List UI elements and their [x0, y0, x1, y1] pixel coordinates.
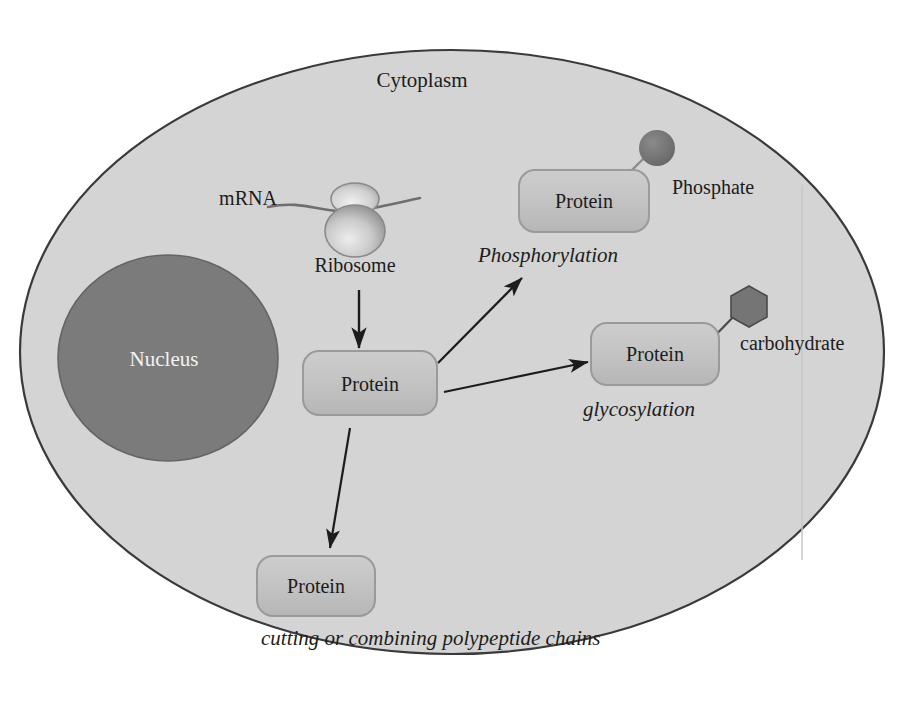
- phosphate-label: Phosphate: [672, 176, 754, 199]
- cell-diagram: Cytoplasm Nucleus mRNA Ribosome Protein …: [0, 0, 903, 717]
- glycosylation-process-label: glycosylation: [583, 397, 695, 421]
- phosphate-group-icon: [639, 130, 675, 166]
- proteolysis-process-label: cutting or combining polypeptide chains: [261, 626, 600, 650]
- nucleus-label: Nucleus: [130, 347, 199, 371]
- mrna-label: mRNA: [219, 187, 277, 209]
- carbohydrate-group-icon: [731, 286, 767, 327]
- ribosome-large-subunit: [325, 205, 385, 257]
- cytoplasm-label: Cytoplasm: [376, 68, 467, 92]
- protein-label-cleaved: Protein: [287, 575, 345, 597]
- diagram-canvas: Cytoplasm Nucleus mRNA Ribosome Protein …: [0, 0, 903, 717]
- protein-label-central: Protein: [341, 373, 399, 395]
- protein-label-glycosylated: Protein: [626, 343, 684, 365]
- protein-label-phosphorylated: Protein: [555, 190, 613, 212]
- ribosome-label: Ribosome: [314, 254, 395, 276]
- phosphorylation-process-label: Phosphorylation: [477, 243, 618, 267]
- carbohydrate-label: carbohydrate: [740, 332, 845, 355]
